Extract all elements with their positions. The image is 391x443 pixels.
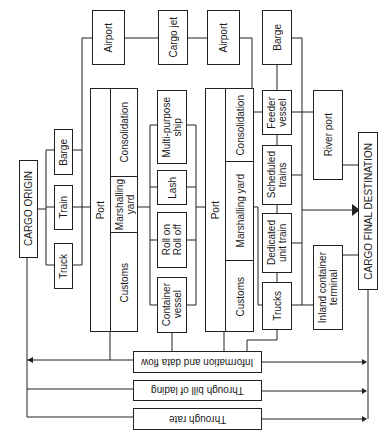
port2-consolidation: Consolidation	[235, 95, 246, 156]
origin-truck-label: Truck	[58, 254, 69, 279]
bill-of-lading-label: Through bill of lading	[151, 385, 244, 396]
multipurpose-ship-box: Multi-purpose ship	[157, 90, 187, 164]
port1-title: Port	[95, 201, 106, 219]
through-rate-box: Through rate	[133, 408, 262, 430]
container-vessel-box: Container vessel	[157, 277, 187, 333]
airport1-label: Airport	[103, 23, 114, 52]
scheduled-trains-box: Scheduled trains	[262, 145, 292, 205]
through-rate-label: Through rate	[169, 414, 226, 425]
airport2-label: Airport	[218, 23, 229, 52]
container-vessel-label: Container vessel	[161, 283, 183, 326]
dedicated-train-label: Dedicated unit train	[266, 220, 288, 265]
dedicated-train-box: Dedicated unit train	[262, 213, 292, 273]
cargo-destination-label: CARGO FINAL DESTINATION	[363, 143, 374, 280]
info-flow-label: Information and data flow	[141, 357, 253, 368]
river-port-label: River port	[323, 113, 334, 156]
port1-marshalling: Marshalling yard	[114, 179, 136, 230]
airport2-box: Airport	[207, 10, 240, 65]
roro-label: Roll on Roll off	[161, 224, 183, 255]
trucks-label: Trucks	[272, 291, 283, 321]
inland-terminal-label: Inland container terminal	[317, 252, 339, 323]
cargo-destination-box: CARGO FINAL DESTINATION	[358, 132, 378, 290]
port1-consolidation: Consolidation	[119, 102, 130, 163]
lash-label: Lash	[167, 177, 178, 199]
origin-train-label: Train	[58, 196, 69, 218]
trucks-box: Trucks	[262, 282, 292, 330]
feeder-vessel-label: Feeder vessel	[266, 97, 288, 129]
port2-marshalling: Marshalling yard	[235, 174, 246, 247]
origin-barge-box: Barge	[54, 129, 73, 175]
cargo-origin-label: CARGO ORIGIN	[23, 171, 34, 246]
cargo-jet-label: Cargo jet	[168, 17, 179, 58]
port1-customs: Customs	[119, 263, 130, 302]
river-port-box: River port	[313, 90, 343, 180]
port1-box: Port Customs Marshalling yard Consolidat…	[90, 88, 138, 332]
airport1-box: Airport	[92, 10, 125, 65]
cargo-origin-box: CARGO ORIGIN	[19, 160, 38, 258]
origin-barge-label: Barge	[58, 139, 69, 166]
info-flow-box: Information and data flow	[133, 351, 262, 373]
bill-of-lading-box: Through bill of lading	[133, 380, 262, 401]
cargo-jet-box: Cargo jet	[158, 10, 188, 65]
scheduled-trains-label: Scheduled trains	[266, 151, 288, 198]
multipurpose-ship-label: Multi-purpose ship	[161, 97, 183, 158]
origin-train-box: Train	[54, 185, 73, 230]
feeder-vessel-box: Feeder vessel	[262, 90, 292, 135]
port2-customs: Customs	[235, 277, 246, 316]
roro-box: Roll on Roll off	[157, 212, 187, 268]
port2-title: Port	[210, 201, 221, 219]
lash-box: Lash	[157, 170, 187, 205]
inland-terminal-box: Inland container terminal	[313, 245, 343, 330]
origin-truck-box: Truck	[54, 243, 73, 289]
barge2-label: Barge	[272, 24, 283, 51]
barge2-box: Barge	[262, 10, 292, 65]
port2-box: Port Customs Marshalling yard Consolidat…	[205, 88, 254, 332]
